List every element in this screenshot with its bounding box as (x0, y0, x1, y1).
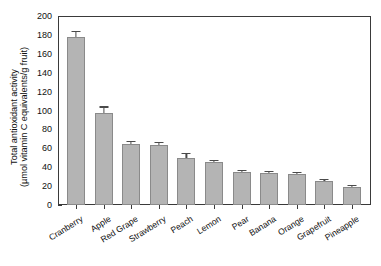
y-tick-label: 40 (26, 162, 52, 172)
bar-group (150, 16, 168, 205)
error-bar (213, 161, 214, 162)
y-tick-label: 20 (26, 181, 52, 191)
bar-group (122, 16, 140, 205)
x-tick-mark (104, 205, 105, 209)
error-bar (103, 108, 104, 114)
bar-group (95, 16, 113, 205)
y-tick-label: 80 (26, 124, 52, 134)
bar-group (233, 16, 251, 205)
x-tick-mark (159, 205, 160, 209)
error-bar (158, 143, 159, 144)
x-tick-mark (297, 205, 298, 209)
bar-group (288, 16, 306, 205)
bar-group (177, 16, 195, 205)
bar-group (315, 16, 333, 205)
x-tick-mark (76, 205, 77, 209)
x-tick-mark (131, 205, 132, 209)
error-bar-cap (154, 142, 163, 143)
bar-group (67, 16, 85, 205)
bar (343, 187, 361, 205)
bar (67, 37, 85, 205)
error-bar-cap (265, 171, 274, 172)
y-tick-label: 180 (26, 30, 52, 40)
x-tick-mark (186, 205, 187, 209)
y-tick-label: 0 (26, 200, 52, 210)
bar (95, 113, 113, 205)
error-bar-cap (320, 179, 329, 180)
x-tick-mark (269, 205, 270, 209)
bars-layer (58, 16, 371, 205)
y-tick-label: 140 (26, 68, 52, 78)
error-bar-cap (210, 160, 219, 161)
x-tick-mark (242, 205, 243, 209)
error-bar-cap (99, 106, 108, 107)
bar (205, 162, 223, 205)
error-bar (131, 142, 132, 143)
x-tick-mark (214, 205, 215, 209)
bar (260, 173, 278, 205)
y-tick-label: 200 (26, 11, 52, 21)
error-bar (269, 172, 270, 173)
bar-group (343, 16, 361, 205)
error-bar-cap (348, 185, 357, 186)
error-bar (241, 171, 242, 172)
error-bar (186, 154, 187, 158)
bar (122, 144, 140, 205)
bar (233, 172, 251, 205)
bar-group (205, 16, 223, 205)
y-tick-label: 160 (26, 49, 52, 59)
error-bar (75, 32, 76, 37)
y-tick-mark (58, 205, 62, 206)
y-axis-title-line-1: Total antioxidant activity (9, 69, 19, 165)
y-tick-label: 100 (26, 106, 52, 116)
y-tick-label: 120 (26, 87, 52, 97)
bar (177, 158, 195, 205)
error-bar-cap (72, 31, 81, 32)
bar (288, 174, 306, 205)
bar-group (260, 16, 278, 205)
x-tick-mark (324, 205, 325, 209)
error-bar (351, 186, 352, 187)
error-bar-cap (127, 141, 136, 142)
error-bar (296, 173, 297, 174)
error-bar-cap (182, 153, 191, 154)
bar (315, 181, 333, 205)
bar (150, 145, 168, 205)
x-tick-mark (352, 205, 353, 209)
error-bar-cap (292, 172, 301, 173)
error-bar (324, 180, 325, 181)
antioxidant-bar-chart: Total antioxidant activity (µmol vitamin… (0, 0, 381, 266)
y-tick-label: 60 (26, 143, 52, 153)
error-bar-cap (237, 170, 246, 171)
